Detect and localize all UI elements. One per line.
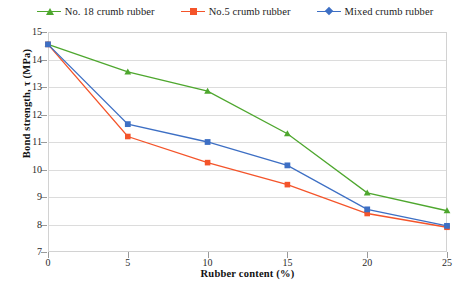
x-tick-label: 5: [113, 258, 143, 268]
legend-item-no18[interactable]: No. 18 crumb rubber: [37, 6, 155, 17]
y-tick-label: 8: [16, 220, 42, 230]
x-tick-label: 0: [33, 258, 63, 268]
plot-area: [48, 32, 447, 252]
gridline: [49, 225, 446, 226]
legend-marker-square-icon: [181, 7, 205, 17]
chart-legend: No. 18 crumb rubber No.5 crumb rubber Mi…: [0, 6, 470, 17]
gridline: [49, 170, 446, 171]
legend-label-no5: No.5 crumb rubber: [209, 6, 291, 17]
legend-marker: [190, 8, 197, 15]
gridline: [49, 60, 446, 61]
y-tick-label: 7: [16, 247, 42, 257]
legend-label-mixed: Mixed crumb rubber: [345, 6, 434, 17]
legend-marker: [46, 8, 54, 15]
legend-label-no18: No. 18 crumb rubber: [65, 6, 155, 17]
y-axis-title: Bond strength, τ (MPa): [21, 24, 32, 184]
x-tick-label: 25: [432, 258, 462, 268]
gridline: [49, 115, 446, 116]
chart-container: No. 18 crumb rubber No.5 crumb rubber Mi…: [0, 0, 470, 284]
y-tick-label: 9: [16, 192, 42, 202]
legend-marker: [325, 7, 333, 15]
legend-marker-diamond-icon: [317, 7, 341, 17]
legend-item-no5[interactable]: No.5 crumb rubber: [181, 6, 291, 17]
gridline: [49, 142, 446, 143]
x-tick-label: 15: [272, 258, 302, 268]
gridline: [49, 197, 446, 198]
x-tick-label: 10: [193, 258, 223, 268]
gridline: [49, 87, 446, 88]
legend-item-mixed[interactable]: Mixed crumb rubber: [317, 6, 434, 17]
legend-marker-triangle-icon: [37, 7, 61, 17]
x-tick-label: 20: [352, 258, 382, 268]
x-axis-title: Rubber content (%): [48, 268, 447, 279]
